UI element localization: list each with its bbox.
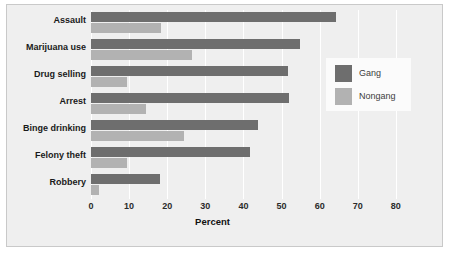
legend-label: Gang bbox=[359, 68, 381, 78]
legend-swatch-nongang-icon bbox=[335, 88, 352, 105]
category-label: Assault bbox=[53, 15, 86, 25]
bar-chart: Assault Marijuana use Drug selling Arres… bbox=[0, 0, 449, 259]
bar-nongang-binge-drinking bbox=[91, 131, 184, 141]
x-axis-title: Percent bbox=[0, 216, 449, 227]
bar-nongang-drug-selling bbox=[91, 77, 127, 87]
category-label: Drug selling bbox=[34, 69, 86, 79]
category-label: Robbery bbox=[49, 177, 86, 187]
bar-nongang-robbery bbox=[91, 185, 99, 195]
x-tick-label: 30 bbox=[190, 201, 220, 211]
category-label: Binge drinking bbox=[23, 123, 86, 133]
x-tick-label: 50 bbox=[267, 201, 297, 211]
bar-nongang-felony-theft bbox=[91, 158, 127, 168]
bar-gang-assault bbox=[91, 12, 336, 22]
x-tick-label: 80 bbox=[381, 201, 411, 211]
category-label: Felony theft bbox=[35, 150, 86, 160]
bar-nongang-assault bbox=[91, 23, 161, 33]
category-axis: Assault Marijuana use Drug selling Arres… bbox=[0, 10, 86, 197]
legend: Gang Nongang bbox=[326, 58, 411, 111]
x-tick-label: 20 bbox=[152, 201, 182, 211]
x-tick-label: 60 bbox=[305, 201, 335, 211]
category-label: Arrest bbox=[59, 96, 86, 106]
x-tick-label: 0 bbox=[76, 201, 106, 211]
x-axis-title-text: Percent bbox=[195, 216, 230, 227]
category-label: Marijuana use bbox=[26, 42, 86, 52]
bar-gang-drug-selling bbox=[91, 66, 288, 76]
bar-gang-arrest bbox=[91, 93, 289, 103]
x-axis-ticks: 01020304050607080 bbox=[91, 201, 434, 215]
gridline bbox=[320, 10, 321, 199]
bar-gang-binge-drinking bbox=[91, 120, 258, 130]
bar-gang-marijuana-use bbox=[91, 39, 300, 49]
bar-nongang-marijuana-use bbox=[91, 50, 192, 60]
bar-gang-robbery bbox=[91, 174, 160, 184]
legend-label: Nongang bbox=[359, 91, 396, 101]
x-tick-label: 40 bbox=[228, 201, 258, 211]
x-tick-label: 70 bbox=[343, 201, 373, 211]
legend-swatch-gang-icon bbox=[335, 65, 352, 82]
bar-nongang-arrest bbox=[91, 104, 146, 114]
bar-gang-felony-theft bbox=[91, 147, 250, 157]
x-tick-label: 10 bbox=[114, 201, 144, 211]
